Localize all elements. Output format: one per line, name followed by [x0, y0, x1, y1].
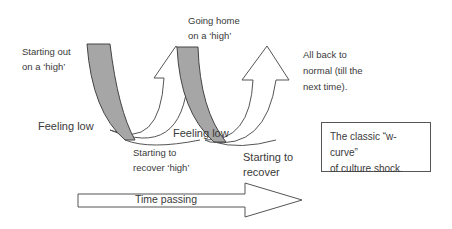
- label-starting-recover-1: Starting to recover ‘high’: [133, 145, 190, 175]
- time-passing-label: Time passing: [135, 193, 197, 205]
- label-starting-out: Starting out on a ‘high’: [22, 44, 71, 74]
- label-line: Starting to: [133, 145, 190, 160]
- label-line: next time).: [303, 79, 363, 95]
- label-all-back: All back to normal (till the next time).: [303, 47, 363, 95]
- label-going-home: Going home on a ‘high’: [188, 13, 240, 43]
- caption-line: of culture shock.: [330, 161, 422, 177]
- label-starting-recover-2: Starting to recover: [243, 150, 293, 180]
- label-line: normal (till the: [303, 63, 363, 79]
- label-line: All back to: [303, 47, 363, 63]
- label-line: Starting to: [243, 150, 293, 165]
- label-line: Going home: [188, 13, 240, 28]
- label-line: Starting out: [22, 44, 71, 59]
- label-line: recover ‘high’: [133, 160, 190, 175]
- label-feeling-low-1: Feeling low: [38, 119, 94, 134]
- label-feeling-low-2: Feeling low: [173, 126, 229, 141]
- label-line: on a ‘high’: [188, 28, 240, 43]
- caption-box: The classic “w-curve” of culture shock.: [321, 122, 431, 172]
- decline-band-1: [87, 44, 135, 140]
- caption-line: The classic “w-curve”: [330, 129, 422, 161]
- label-line: on a ‘high’: [22, 59, 71, 74]
- label-line: recover: [243, 165, 293, 180]
